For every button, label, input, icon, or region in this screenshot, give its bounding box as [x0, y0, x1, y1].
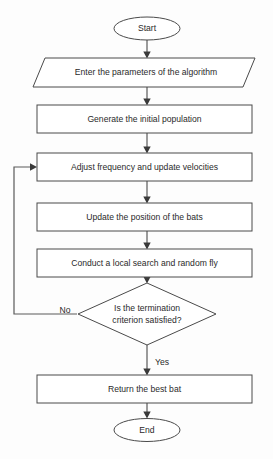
node-adjust-frequency[interactable]: Adjust frequency and update velocities	[37, 153, 252, 181]
local-search-label: Conduct a local search and random fly	[71, 258, 218, 268]
edge-label-yes: Yes	[155, 357, 169, 367]
connector-generate-to-adjust	[143, 133, 150, 154]
decision-label-line2: criterion satisfied?	[112, 315, 181, 325]
generate-population-label: Generate the initial population	[87, 114, 201, 124]
node-start[interactable]: Start	[114, 17, 180, 40]
connector-localsearch-to-decision	[143, 277, 150, 284]
start-label: Start	[138, 23, 157, 33]
connector-update-to-localsearch	[143, 231, 150, 250]
edge-label-no: No	[60, 305, 71, 315]
decision-diamond	[78, 283, 216, 345]
connector-decision-yes-to-return	[143, 345, 150, 376]
node-local-search[interactable]: Conduct a local search and random fly	[37, 249, 252, 277]
return-best-bat-label: Return the best bat	[108, 384, 182, 394]
node-update-position[interactable]: Update the position of the bats	[37, 203, 252, 231]
node-return-best-bat[interactable]: Return the best bat	[37, 375, 252, 403]
node-input-parameters[interactable]: Enter the parameters of the algorithm	[33, 58, 255, 87]
connector-return-to-end	[143, 403, 150, 419]
input-parameters-label: Enter the parameters of the algorithm	[75, 67, 217, 77]
node-generate-population[interactable]: Generate the initial population	[37, 105, 252, 133]
connector-start-to-input	[143, 40, 150, 59]
connector-input-to-generate	[143, 87, 150, 106]
node-termination-decision[interactable]: Is the termination criterion satisfied?	[78, 283, 216, 345]
connector-adjust-to-update	[143, 181, 150, 204]
adjust-frequency-label: Adjust frequency and update velocities	[71, 162, 218, 172]
end-label: End	[139, 425, 155, 435]
flowchart-canvas: Start Enter the parameters of the algori…	[0, 0, 273, 459]
flowchart-svg: Start Enter the parameters of the algori…	[0, 0, 273, 459]
node-end[interactable]: End	[114, 419, 180, 442]
connector-decision-no-feedback-loop	[14, 163, 77, 314]
decision-label-line1: Is the termination	[114, 303, 180, 313]
update-position-label: Update the position of the bats	[86, 212, 203, 222]
